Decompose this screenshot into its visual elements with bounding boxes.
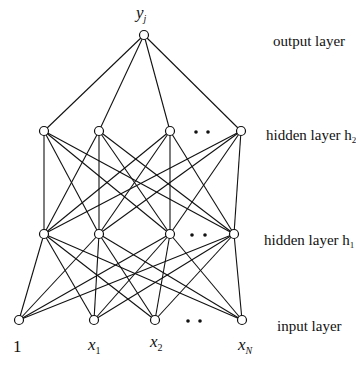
connection-edge bbox=[155, 234, 170, 320]
connection-edge bbox=[234, 131, 241, 234]
ellipsis-dot bbox=[186, 319, 190, 323]
neuron-node bbox=[230, 230, 239, 239]
bias-node-label: 1 bbox=[13, 337, 22, 356]
neuron-node bbox=[95, 127, 104, 136]
neuron-node bbox=[95, 230, 104, 239]
connection-edge bbox=[94, 234, 170, 320]
neural-network-diagram: yj 1 x1 x2 xN output layer hidden layer … bbox=[0, 0, 356, 367]
neuron-node bbox=[90, 316, 99, 325]
connection-edge bbox=[44, 35, 144, 131]
neuron-node bbox=[237, 127, 246, 136]
neuron-node bbox=[140, 31, 149, 40]
ellipsis-dot bbox=[203, 233, 207, 237]
ellipsis-dot bbox=[194, 130, 198, 134]
connections bbox=[19, 35, 242, 320]
input-layer-label: input layer bbox=[277, 318, 342, 334]
connection-edge bbox=[99, 234, 242, 320]
ellipsis-dot bbox=[190, 233, 194, 237]
connection-edge bbox=[99, 131, 234, 234]
connection-edge bbox=[155, 234, 234, 320]
ellipsis-dot bbox=[198, 319, 202, 323]
connection-edge bbox=[44, 234, 155, 320]
neuron-node bbox=[15, 316, 24, 325]
x1-label: x1 bbox=[87, 335, 101, 356]
neuron-node bbox=[238, 316, 247, 325]
x2-label: x2 bbox=[149, 332, 163, 353]
hidden-layer-1-label: hidden layer h1 bbox=[264, 232, 354, 250]
connection-edge bbox=[144, 35, 170, 131]
connection-edge bbox=[144, 35, 241, 131]
output-node-label: yj bbox=[134, 3, 147, 24]
connection-edge bbox=[99, 35, 144, 131]
neuron-node bbox=[166, 230, 175, 239]
ellipsis-dot bbox=[206, 130, 210, 134]
hidden-layer-2-label: hidden layer h2 bbox=[266, 127, 356, 145]
neuron-node bbox=[40, 230, 49, 239]
connection-edge bbox=[234, 234, 242, 320]
connection-edge bbox=[170, 131, 234, 234]
neuron-node bbox=[166, 127, 175, 136]
xN-label: xN bbox=[237, 335, 254, 356]
neuron-node bbox=[151, 316, 160, 325]
output-layer-label: output layer bbox=[273, 33, 345, 49]
neuron-node bbox=[40, 127, 49, 136]
connection-edge bbox=[170, 234, 242, 320]
